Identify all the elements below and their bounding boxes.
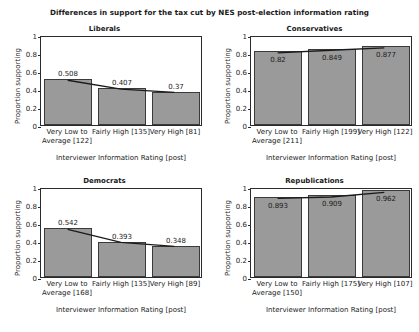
y-tick-label: 0.4 xyxy=(236,87,251,95)
figure: Differences in support for the tax cut b… xyxy=(0,0,419,332)
panel-democrats: DemocratsProportion supporting00.20.40.6… xyxy=(0,174,209,324)
y-axis-label: Proportion supporting xyxy=(14,190,25,286)
x-tick-labels: Very Low to Average [122]Fairly High [13… xyxy=(40,128,202,154)
y-tick-label: 1 xyxy=(243,33,251,41)
y-tick-label: 0.4 xyxy=(236,239,251,247)
y-axis-label: Proportion supporting xyxy=(224,38,235,134)
y-tick-label: 0.8 xyxy=(26,51,41,59)
x-axis-label: Interviewer Information Rating [post] xyxy=(250,154,412,162)
y-tick-label: 0.4 xyxy=(26,87,41,95)
x-tick-label: Very Low to Average [168] xyxy=(36,280,98,298)
y-axis-label: Proportion supporting xyxy=(14,38,25,134)
panel-republications: RepublicationsProportion supporting00.20… xyxy=(210,174,419,324)
x-tick-label: Very Low to Average [211] xyxy=(246,128,308,146)
trend-line xyxy=(251,37,411,125)
y-tick-label: 0.8 xyxy=(236,203,251,211)
y-tick-label: 0.2 xyxy=(26,257,41,265)
x-tick-label: Very High [122] xyxy=(354,128,416,137)
x-tick-labels: Very Low to Average [211]Fairly High [19… xyxy=(250,128,412,154)
panel-title: Republications xyxy=(210,177,419,185)
x-tick-label: Very High [89] xyxy=(144,280,206,289)
y-tick-label: 1 xyxy=(33,185,41,193)
y-tick-label: 0.2 xyxy=(26,105,41,113)
y-tick-label: 1 xyxy=(243,185,251,193)
y-tick-label: 1 xyxy=(33,33,41,41)
x-tick-label: Fairly High [135] xyxy=(90,280,152,289)
trend-line xyxy=(251,189,411,277)
x-tick-label: Very Low to Average [150] xyxy=(246,280,308,298)
panel-title: Democrats xyxy=(0,177,209,185)
y-tick-label: 0.2 xyxy=(236,105,251,113)
trend-line xyxy=(41,37,201,125)
plot-area: 00.20.40.60.810.8930.9090.962 xyxy=(250,188,412,278)
y-tick-label: 0.6 xyxy=(26,69,41,77)
panel-title: Liberals xyxy=(0,25,209,33)
y-axis-label: Proportion supporting xyxy=(224,190,235,286)
panel-title: Conservatives xyxy=(210,25,419,33)
y-tick-label: 0.8 xyxy=(236,51,251,59)
x-tick-label: Very High [81] xyxy=(144,128,206,137)
x-axis-label: Interviewer Information Rating [post] xyxy=(250,306,412,314)
y-tick-label: 0.6 xyxy=(26,221,41,229)
x-tick-labels: Very Low to Average [150]Fairly High [17… xyxy=(250,280,412,306)
plot-area: 00.20.40.60.810.820.8490.877 xyxy=(250,36,412,126)
y-tick-label: 0.2 xyxy=(236,257,251,265)
plot-area: 00.20.40.60.810.5420.3930.348 xyxy=(40,188,202,278)
figure-title: Differences in support for the tax cut b… xyxy=(0,8,419,17)
x-tick-label: Fairly High [199] xyxy=(300,128,362,137)
plot-area: 00.20.40.60.810.5080.4070.37 xyxy=(40,36,202,126)
x-axis-label: Interviewer Information Rating [post] xyxy=(40,154,202,162)
x-tick-labels: Very Low to Average [168]Fairly High [13… xyxy=(40,280,202,306)
x-axis-label: Interviewer Information Rating [post] xyxy=(40,306,202,314)
y-tick-label: 0.6 xyxy=(236,69,251,77)
y-tick-label: 0.6 xyxy=(236,221,251,229)
y-tick-label: 0.8 xyxy=(26,203,41,211)
x-tick-label: Fairly High [175] xyxy=(300,280,362,289)
trend-line xyxy=(41,189,201,277)
panel-conservatives: ConservativesProportion supporting00.20.… xyxy=(210,22,419,172)
x-tick-label: Fairly High [135] xyxy=(90,128,152,137)
panel-liberals: LiberalsProportion supporting00.20.40.60… xyxy=(0,22,209,172)
x-tick-label: Very Low to Average [122] xyxy=(36,128,98,146)
y-tick-label: 0.4 xyxy=(26,239,41,247)
x-tick-label: Very High [107] xyxy=(354,280,416,289)
